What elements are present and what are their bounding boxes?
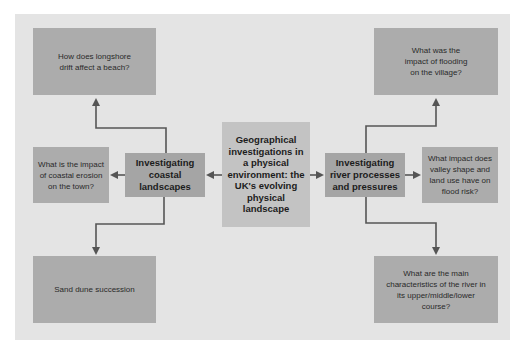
question-text: What impact does valley shape and land u…	[426, 153, 494, 197]
question-text: How does longshore drift affect a beach?	[55, 51, 135, 73]
question-coastal-erosion: What is the impact of coastal erosion on…	[33, 147, 109, 203]
question-flooding-impact: What was the impact of flooding on the v…	[374, 28, 498, 95]
branch-label: Investigating coastal landscapes	[127, 157, 203, 193]
question-river-characteristics: What are the main characteristics of the…	[374, 256, 498, 323]
question-text: What is the impact of coastal erosion on…	[37, 159, 105, 192]
branch-river-processes: Investigating river processes and pressu…	[325, 153, 405, 197]
question-sand-dune: Sand dune succession	[33, 256, 156, 323]
question-text: Sand dune succession	[54, 284, 135, 295]
question-text: What are the main characteristics of the…	[386, 268, 486, 312]
question-longshore-drift: How does longshore drift affect a beach?	[33, 28, 156, 95]
question-valley-shape: What impact does valley shape and land u…	[422, 147, 498, 203]
branch-coastal-landscapes: Investigating coastal landscapes	[125, 153, 205, 197]
branch-label: Investigating river processes and pressu…	[327, 157, 403, 193]
central-topic-label: Geographical investigations in a physica…	[225, 134, 307, 215]
central-topic: Geographical investigations in a physica…	[222, 122, 310, 227]
question-text: What was the impact of flooding on the v…	[400, 45, 472, 78]
